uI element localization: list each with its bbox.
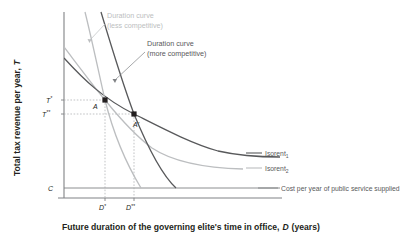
duration-isorent-chart: T* T** C D* D** A A' Duration curve (les… (0, 0, 404, 236)
point-label-a-prime: A' (132, 121, 140, 128)
annotation-duration-less-competitive-line1: Duration curve (107, 11, 154, 20)
point-marker-a (102, 97, 107, 102)
x-tick-label-d-star: D* (99, 203, 107, 212)
tick-marks (61, 100, 134, 201)
arrowhead-more-competitive (113, 79, 118, 83)
chart-figure: T* T** C D* D** A A' Duration curve (les… (0, 0, 404, 236)
series-label-isorent-2: Isorent2 (265, 165, 289, 174)
y-tick-label-c: C (48, 185, 54, 192)
annotation-duration-more-competitive-line2: (more competitive) (147, 49, 207, 58)
annotation-duration-less-competitive-line2: (less competitive) (107, 21, 163, 30)
series-label-cost-line: Cost per year of public service supplied (281, 185, 400, 193)
leader-lines (88, 24, 146, 83)
y-axis-title: Total tax revenue per year,T (12, 59, 22, 176)
y-tick-label-t-star: T* (46, 95, 53, 104)
y-tick-label-t-star-star: T** (42, 109, 51, 118)
x-axis-title: Future duration of the governing elite's… (62, 222, 320, 232)
leader-less-competitive (90, 24, 105, 40)
annotation-duration-more-competitive-line1: Duration curve (147, 39, 194, 48)
x-tick-label-d-star-star: D** (126, 203, 136, 212)
guide-lines (64, 100, 134, 198)
leader-more-competitive (115, 52, 145, 80)
arrowhead-less-competitive (88, 39, 92, 43)
point-marker-a-prime (131, 111, 136, 116)
point-label-a: A (92, 103, 98, 110)
